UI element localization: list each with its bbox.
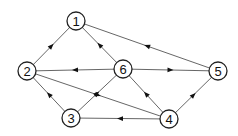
node-2: 2 bbox=[18, 62, 36, 80]
node-label: 6 bbox=[119, 62, 126, 77]
node-4: 4 bbox=[160, 110, 178, 128]
node-5: 5 bbox=[209, 62, 227, 80]
edge-6-to-2 bbox=[36, 68, 114, 73]
arrowhead-icon bbox=[144, 45, 150, 50]
node-label: 5 bbox=[214, 64, 221, 79]
arrowhead-icon bbox=[72, 68, 78, 73]
edge-5-to-1 bbox=[84, 24, 209, 68]
node-label: 4 bbox=[165, 112, 172, 127]
edge-2-to-1 bbox=[33, 27, 69, 64]
node-3: 3 bbox=[62, 109, 80, 127]
nodes-layer: 123456 bbox=[18, 12, 227, 128]
edge-4-to-3 bbox=[80, 116, 160, 121]
arrowhead-icon bbox=[117, 116, 123, 121]
edge-4-to-5 bbox=[175, 77, 211, 112]
node-6: 6 bbox=[114, 60, 132, 78]
edge-3-to-6 bbox=[78, 75, 117, 112]
node-1: 1 bbox=[67, 12, 85, 30]
directed-graph: 123456 bbox=[0, 0, 238, 136]
node-label: 1 bbox=[72, 14, 79, 29]
edge-6-to-1 bbox=[82, 27, 116, 62]
edge-2-to-4 bbox=[36, 74, 161, 116]
node-label: 2 bbox=[23, 64, 30, 79]
edge-6-to-5 bbox=[132, 68, 209, 73]
node-label: 3 bbox=[67, 111, 74, 126]
arrowhead-icon bbox=[167, 68, 173, 73]
